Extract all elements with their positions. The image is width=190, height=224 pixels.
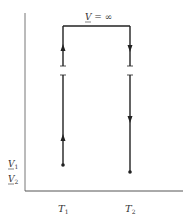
x-label-t2: T2 [125,203,136,215]
up-arrow-icon [61,44,66,51]
up-arrow-icon [61,134,66,141]
x-label-t1: T1 [58,203,69,215]
state-point-v1 [61,163,65,167]
top-label: V = ∞ [85,12,112,22]
state-point-v2 [128,170,132,174]
down-arrow-icon [128,116,133,123]
y-label-v2: V2 [8,174,19,185]
y-label-v1: V1 [8,159,18,170]
down-arrow-icon [128,45,133,52]
diagram-canvas: V = ∞ V1 V2 T1 T2 [0,0,190,224]
